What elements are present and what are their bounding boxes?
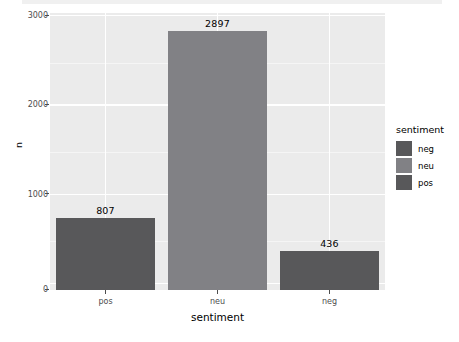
- legend-item-pos[interactable]: pos: [396, 175, 444, 190]
- y-tick-mark-0: [45, 289, 49, 290]
- x-tick-mark-neg: [329, 290, 330, 294]
- top-edge-artifact: [22, 0, 442, 4]
- bar-chart-figure: 807 2897 436 3000 2000 1000 0 n pos neu …: [0, 0, 459, 342]
- bar-pos[interactable]: [56, 218, 155, 290]
- x-axis-title: sentiment: [50, 311, 385, 323]
- bar-value-label-neu: 2897: [168, 18, 267, 29]
- legend: sentiment neg neu pos: [396, 124, 444, 192]
- legend-label-neg: neg: [418, 144, 434, 154]
- legend-label-pos: pos: [418, 178, 433, 188]
- y-tick-mark-3000: [45, 15, 49, 16]
- x-tick-label-neg: neg: [280, 297, 379, 306]
- x-tick-mark-pos: [105, 290, 106, 294]
- legend-title: sentiment: [396, 124, 444, 135]
- legend-item-neu[interactable]: neu: [396, 158, 444, 173]
- legend-swatch-neg: [396, 141, 412, 156]
- y-tick-mark-2000: [45, 104, 49, 105]
- x-tick-label-neu: neu: [168, 297, 267, 306]
- bar-value-label-pos: 807: [56, 205, 155, 216]
- x-tick-mark-neu: [217, 290, 218, 294]
- x-tick-label-pos: pos: [56, 297, 155, 306]
- bar-neg[interactable]: [280, 251, 379, 290]
- bar-neu[interactable]: [168, 31, 267, 290]
- y-tick-label-2000: 2000: [20, 100, 48, 109]
- legend-item-neg[interactable]: neg: [396, 141, 444, 156]
- y-tick-mark-1000: [45, 193, 49, 194]
- bar-value-label-neg: 436: [280, 238, 379, 249]
- y-tick-label-0: 0: [20, 285, 48, 294]
- legend-swatch-neu: [396, 158, 412, 173]
- legend-label-neu: neu: [418, 161, 434, 171]
- legend-swatch-pos: [396, 175, 412, 190]
- y-tick-label-1000: 1000: [20, 190, 48, 199]
- y-axis-title: n: [13, 142, 24, 148]
- y-tick-label-3000: 3000: [20, 11, 48, 20]
